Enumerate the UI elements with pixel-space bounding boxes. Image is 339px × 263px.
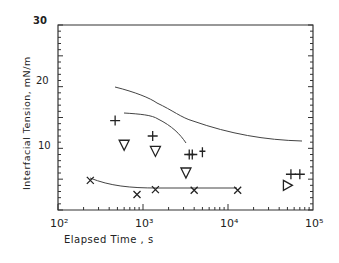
y-tick-20: 20 xyxy=(36,75,49,86)
dagger-marker xyxy=(199,147,205,157)
trend-curves xyxy=(90,87,302,188)
plus-marker xyxy=(110,116,120,126)
chart: 30 20 10 10² 10³ 10⁴ 10⁵ Elapsed Time , … xyxy=(0,0,339,263)
plus-marker xyxy=(286,169,296,179)
x-tick-1000: 10³ xyxy=(135,217,153,230)
plus-marker xyxy=(295,169,305,179)
down-triangle-marker xyxy=(181,168,191,178)
y-tick-10: 10 xyxy=(38,140,51,151)
y-ticks xyxy=(58,25,313,210)
x-tick-10000: 10⁴ xyxy=(220,217,239,230)
right-triangle-marker xyxy=(283,180,292,190)
down-triangle-marker xyxy=(119,140,129,150)
plus-marker xyxy=(148,131,158,141)
x-tick-100: 10² xyxy=(50,217,68,230)
y-tick-labels: 30 20 10 xyxy=(33,15,51,151)
cross-marker xyxy=(234,187,241,194)
cross-marker xyxy=(152,186,159,193)
x-tick-labels: 10² 10³ 10⁴ 10⁵ xyxy=(50,217,323,230)
axes xyxy=(58,25,313,210)
y-axis-label: Interfacial Tension, mN/m xyxy=(21,56,32,190)
x-tick-100000: 10⁵ xyxy=(305,217,323,230)
cross-marker xyxy=(134,191,141,198)
x-ticks xyxy=(58,204,309,210)
x-axis-label: Elapsed Time , s xyxy=(64,234,154,245)
down-triangle-marker xyxy=(150,146,160,156)
y-tick-30: 30 xyxy=(33,15,47,26)
